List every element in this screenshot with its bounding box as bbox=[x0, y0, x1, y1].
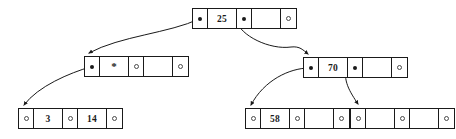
pointer-cell-null bbox=[63, 109, 78, 128]
key-cell: 3 bbox=[34, 109, 63, 128]
filled-pointer-icon bbox=[309, 66, 313, 70]
key-cell-empty bbox=[305, 109, 334, 128]
tree-diagram-canvas: 25*7031458 bbox=[0, 0, 456, 139]
left-internal-node[interactable]: * bbox=[84, 56, 189, 77]
null-pointer-icon bbox=[178, 64, 183, 69]
null-pointer-icon bbox=[444, 116, 449, 121]
key-cell: 58 bbox=[261, 109, 290, 128]
pointer-cell-null bbox=[281, 9, 296, 28]
key-cell-empty bbox=[252, 9, 281, 28]
pointer-cell-null bbox=[392, 58, 407, 77]
key-label: 25 bbox=[217, 14, 227, 24]
edge-right-internal-to-leaf-middle bbox=[251, 68, 309, 105]
null-pointer-icon bbox=[68, 116, 73, 121]
key-label: 3 bbox=[46, 114, 51, 124]
null-pointer-icon bbox=[24, 116, 29, 121]
filled-pointer-icon bbox=[198, 17, 202, 21]
key-cell: 25 bbox=[208, 9, 237, 28]
filled-pointer-icon bbox=[353, 66, 357, 70]
right-internal-node[interactable]: 70 bbox=[303, 57, 408, 78]
pointer-cell-null bbox=[395, 109, 410, 128]
pointer-cell-filled bbox=[304, 58, 319, 77]
pointer-cell-null bbox=[334, 109, 349, 128]
key-cell: 70 bbox=[319, 58, 348, 77]
null-pointer-icon bbox=[339, 116, 344, 121]
pointer-cell-null bbox=[351, 109, 366, 128]
pointer-cell-filled bbox=[85, 57, 100, 76]
pointer-cell-null bbox=[439, 109, 454, 128]
null-pointer-icon bbox=[397, 65, 402, 70]
key-cell-empty bbox=[366, 109, 395, 128]
pointer-cell-null bbox=[19, 109, 34, 128]
leaf-node-left[interactable]: 314 bbox=[18, 108, 123, 129]
pointer-cell-filled bbox=[348, 58, 363, 77]
null-pointer-icon bbox=[286, 16, 291, 21]
pointer-cell-null bbox=[246, 109, 261, 128]
key-cell-empty bbox=[363, 58, 392, 77]
pointer-cell-filled bbox=[193, 9, 208, 28]
root-node[interactable]: 25 bbox=[192, 8, 297, 29]
leaf-node-right[interactable] bbox=[350, 108, 455, 129]
key-label: * bbox=[111, 61, 117, 72]
key-label: 58 bbox=[270, 114, 280, 124]
pointer-cell-null bbox=[173, 57, 188, 76]
pointer-cell-null bbox=[290, 109, 305, 128]
key-cell: 14 bbox=[78, 109, 107, 128]
edge-left-internal-to-leaf-left bbox=[24, 67, 90, 105]
null-pointer-icon bbox=[112, 116, 117, 121]
pointer-cell-null bbox=[129, 57, 144, 76]
key-label: 14 bbox=[87, 114, 97, 124]
key-cell-empty bbox=[410, 109, 439, 128]
edge-root-to-left-internal bbox=[89, 19, 199, 53]
key-cell: * bbox=[100, 57, 129, 76]
filled-pointer-icon bbox=[242, 17, 246, 21]
null-pointer-icon bbox=[400, 116, 405, 121]
null-pointer-icon bbox=[134, 64, 139, 69]
null-pointer-icon bbox=[295, 116, 300, 121]
key-cell-empty bbox=[144, 57, 173, 76]
pointer-cell-filled bbox=[237, 9, 252, 28]
null-pointer-icon bbox=[356, 116, 361, 121]
filled-pointer-icon bbox=[90, 65, 94, 69]
null-pointer-icon bbox=[251, 116, 256, 121]
pointer-cell-null bbox=[107, 109, 122, 128]
leaf-node-middle[interactable]: 58 bbox=[245, 108, 350, 129]
key-label: 70 bbox=[328, 63, 338, 73]
